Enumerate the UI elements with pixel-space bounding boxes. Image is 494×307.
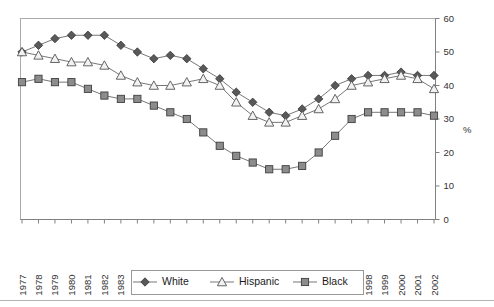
y-tick-label-20: 20 — [444, 147, 455, 158]
y-tick-label-10: 10 — [444, 180, 455, 191]
data-point-black-1989 — [216, 142, 223, 149]
series-markers — [17, 31, 438, 173]
x-tick-label-1977: 1977 — [17, 275, 28, 296]
data-point-black-1999 — [381, 109, 388, 116]
data-point-white-1986 — [166, 51, 174, 59]
chart-legend: WhiteHispanicBlack — [132, 271, 364, 295]
data-point-white-1981 — [84, 31, 92, 39]
data-point-hispanic-1984 — [133, 78, 142, 86]
data-point-white-1984 — [133, 48, 141, 56]
data-point-white-1982 — [100, 31, 108, 39]
data-point-white-1988 — [199, 65, 207, 73]
data-point-white-1987 — [183, 55, 191, 63]
line-chart: 0102030405060 19771978197919801981198219… — [0, 0, 494, 307]
y-axis-ticks: 0102030405060 — [436, 13, 455, 225]
x-tick-label-2002: 2002 — [429, 275, 440, 296]
data-point-hispanic-1995 — [314, 104, 323, 112]
data-point-black-1981 — [84, 85, 91, 92]
y-tick-label-60: 60 — [444, 13, 455, 24]
data-point-black-1978 — [35, 75, 42, 82]
data-point-black-1998 — [364, 109, 371, 116]
data-point-white-1979 — [51, 34, 59, 42]
legend-label-black: Black — [322, 275, 348, 287]
y-axis-unit-label: % — [463, 124, 472, 135]
data-point-black-2000 — [397, 109, 404, 116]
data-point-white-2002 — [430, 71, 438, 79]
data-point-black-1982 — [101, 92, 108, 99]
data-point-hispanic-1988 — [199, 74, 208, 82]
data-point-black-1995 — [315, 149, 322, 156]
series-polylines — [22, 35, 434, 169]
legend-marker-black — [301, 278, 308, 285]
y-tick-label-30: 30 — [444, 113, 455, 124]
data-point-black-1990 — [233, 152, 240, 159]
x-tick-label-2001: 2001 — [412, 275, 423, 296]
series-line-black — [22, 79, 434, 169]
x-tick-label-1978: 1978 — [33, 275, 44, 296]
data-point-black-2001 — [414, 109, 421, 116]
data-point-black-1987 — [183, 115, 190, 122]
data-point-white-1983 — [117, 41, 125, 49]
y-tick-label-50: 50 — [444, 46, 455, 57]
data-point-black-1993 — [282, 166, 289, 173]
x-tick-label-1981: 1981 — [82, 275, 93, 296]
data-point-black-1979 — [51, 79, 58, 86]
data-point-black-1977 — [18, 79, 25, 86]
legend-label-white: White — [162, 275, 189, 287]
y-tick-label-0: 0 — [444, 214, 449, 225]
data-point-hispanic-1991 — [248, 111, 257, 119]
data-point-black-1994 — [299, 162, 306, 169]
bottom-divider — [0, 300, 494, 301]
data-point-white-1978 — [34, 41, 42, 49]
data-point-hispanic-1996 — [331, 94, 340, 102]
x-tick-label-1982: 1982 — [99, 275, 110, 296]
data-point-black-1980 — [68, 79, 75, 86]
data-point-black-1985 — [150, 102, 157, 109]
x-tick-label-1979: 1979 — [49, 275, 60, 296]
data-point-hispanic-1994 — [298, 111, 307, 119]
data-point-black-1983 — [117, 95, 124, 102]
data-point-hispanic-1983 — [116, 71, 125, 79]
legend-label-hispanic: Hispanic — [239, 275, 279, 287]
y-tick-label-40: 40 — [444, 80, 455, 91]
data-point-white-1991 — [249, 98, 257, 106]
data-point-black-1996 — [332, 132, 339, 139]
data-point-white-1992 — [265, 108, 273, 116]
data-point-white-1980 — [67, 31, 75, 39]
data-point-black-1997 — [348, 115, 355, 122]
data-point-white-1985 — [150, 55, 158, 63]
x-tick-label-1980: 1980 — [66, 275, 77, 296]
x-tick-label-1983: 1983 — [115, 275, 126, 296]
data-point-black-1986 — [167, 109, 174, 116]
x-tick-label-2000: 2000 — [396, 275, 407, 296]
data-point-black-1991 — [249, 159, 256, 166]
data-point-black-1992 — [266, 166, 273, 173]
plot-frame — [21, 19, 436, 220]
data-point-black-1984 — [134, 95, 141, 102]
chart-screenshot: 0102030405060 19771978197919801981198219… — [0, 0, 494, 307]
data-point-hispanic-1989 — [215, 81, 224, 89]
data-point-black-1988 — [200, 129, 207, 136]
data-point-black-2002 — [430, 112, 437, 119]
chart-svg: 0102030405060 19771978197919801981198219… — [0, 0, 494, 307]
x-tick-label-1999: 1999 — [379, 275, 390, 296]
x-tick-label-1998: 1998 — [363, 275, 374, 296]
